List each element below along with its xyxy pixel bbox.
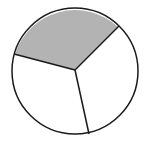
spoke-bottom [75, 70, 89, 134]
fraction-circle-diagram [0, 0, 149, 141]
shaded-sector [15, 10, 118, 70]
